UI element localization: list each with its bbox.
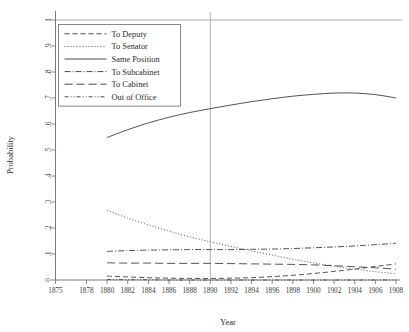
y-tick-label: .3 xyxy=(45,199,53,205)
y-axis-title: Probability xyxy=(5,135,15,174)
x-tick-label: 1902 xyxy=(327,287,342,295)
y-tick-label: 0 xyxy=(45,278,53,282)
y-tick-label: .5 xyxy=(45,147,53,153)
legend-label-out-of-office: Out of Office xyxy=(112,93,157,102)
series-lines xyxy=(107,93,396,280)
y-tick-label: 1 xyxy=(45,18,53,22)
y-tick-labels: 0.1.2.3.4.5.6.7.8.91 xyxy=(45,18,53,282)
y-tick-label: .7 xyxy=(45,95,53,101)
x-tick-label: 1898 xyxy=(286,287,301,295)
x-tick-label: 1892 xyxy=(224,287,239,295)
y-tick-label: .2 xyxy=(45,225,53,231)
legend-label-to-subcabinet: To Subcabinet xyxy=(112,68,161,77)
y-tick-label: .9 xyxy=(45,43,53,49)
y-tick-label: .8 xyxy=(45,69,53,75)
x-axis-title: Year xyxy=(220,317,236,327)
y-tick-label: .6 xyxy=(45,121,53,127)
y-tick-label: .4 xyxy=(45,173,53,179)
x-tick-label: 1896 xyxy=(265,287,280,295)
x-tick-label: 1890 xyxy=(203,287,218,295)
x-tick-label: 1884 xyxy=(141,287,156,295)
x-tick-labels: 1875187818801882188418861888189018921894… xyxy=(48,287,403,295)
series-line-to-subcabinet xyxy=(107,243,396,251)
x-tick-label: 1904 xyxy=(348,287,363,295)
legend-label-same-position: Same Position xyxy=(112,55,161,64)
legend-label-to-cabinet: To Cabinet xyxy=(112,80,150,89)
x-tick-label: 1894 xyxy=(244,287,259,295)
probability-line-chart: 1875187818801882188418861888189018921894… xyxy=(0,0,409,332)
x-tick-label: 1878 xyxy=(79,287,94,295)
legend-label-to-senator: To Senator xyxy=(112,42,149,51)
series-line-to-deputy xyxy=(107,264,396,279)
legend-label-to-deputy: To Deputy xyxy=(112,30,148,39)
x-tick-label: 1886 xyxy=(162,287,177,295)
chart-svg: 1875187818801882188418861888189018921894… xyxy=(0,0,409,332)
x-tick-label: 1888 xyxy=(182,287,197,295)
legend: To DeputyTo SenatorSame PositionTo Subca… xyxy=(59,25,181,107)
x-tick-label: 1906 xyxy=(368,287,383,295)
x-tick-label: 1880 xyxy=(100,287,115,295)
series-line-to-cabinet xyxy=(107,263,396,269)
y-tick-label: .1 xyxy=(45,251,53,257)
x-tick-label: 1900 xyxy=(306,287,321,295)
x-tick-label: 1908 xyxy=(389,287,404,295)
x-tick-marks xyxy=(56,280,397,284)
x-tick-label: 1875 xyxy=(48,287,63,295)
x-tick-label: 1882 xyxy=(121,287,136,295)
